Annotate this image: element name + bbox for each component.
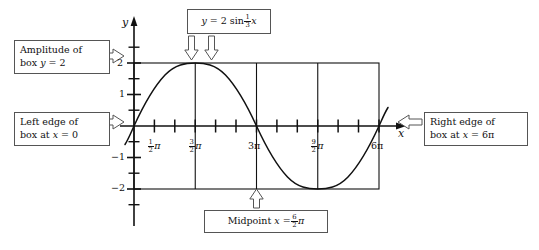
y-tick-label-2: 2 xyxy=(117,57,123,68)
midpoint-variable: x xyxy=(274,215,279,226)
x-axis xyxy=(120,120,406,133)
equation-equals: = xyxy=(210,15,218,26)
x-axis-label: x xyxy=(398,127,404,140)
callout-amplitude-line1: Amplitude of xyxy=(20,44,104,57)
equation-lhs: y xyxy=(201,15,206,26)
x-tick-label-three-half-pi: 3 2 π xyxy=(188,139,202,154)
equation-argument: x xyxy=(251,15,256,26)
y-axis-arrowhead xyxy=(131,16,138,26)
callout-left-edge: Left edge of box at x = 0 xyxy=(14,112,110,146)
y-tick-label-1: 1 xyxy=(119,88,125,99)
callout-left-edge-line2: box at x = 0 xyxy=(20,129,104,142)
midpoint-pi: π xyxy=(298,215,304,226)
y-tick-label-neg1: −1 xyxy=(111,151,125,162)
callout-amplitude-line2: box y = 2 xyxy=(20,57,104,70)
midpoint-fraction-six-halves: 6 2 xyxy=(291,214,297,229)
callout-right-edge-line1: Right edge of xyxy=(430,116,522,129)
callout-left-edge-line1: Left edge of xyxy=(20,116,104,129)
equation-coefficient: 2 xyxy=(221,15,227,26)
y-tick-label-neg2: −2 xyxy=(111,182,125,193)
figure-canvas: 2 1 −1 −2 y x 1 2 π 3 2 π 3π 9 2 π 6π Am… xyxy=(0,0,539,250)
midpoint-callout-arrow xyxy=(250,189,263,208)
callout-right-edge-line2: box at x = 6π xyxy=(430,129,522,142)
equation-function: sin xyxy=(230,15,244,26)
callout-equation: y = 2 sin 1 3 x xyxy=(187,9,271,34)
equation-callout-arrows xyxy=(185,36,218,60)
y-axis xyxy=(127,16,141,226)
fraction-nine-halves: 9 2 xyxy=(311,139,317,154)
midpoint-equals: = xyxy=(283,215,291,226)
fraction-one-half: 1 2 xyxy=(148,139,154,154)
callout-right-edge: Right edge of box at x = 6π xyxy=(424,112,528,146)
x-tick-label-half-pi: 1 2 π xyxy=(147,139,161,154)
x-tick-label-6pi: 6π xyxy=(371,140,383,151)
x-tick-label-nine-half-pi: 9 2 π xyxy=(310,139,324,154)
equation-fraction-one-third: 1 3 xyxy=(244,14,250,29)
y-axis-label: y xyxy=(122,16,128,29)
callout-midpoint: Midpoint x = 6 2 π xyxy=(204,210,328,233)
callout-amplitude: Amplitude of box y = 2 xyxy=(14,40,110,74)
x-tick-label-3pi: 3π xyxy=(248,140,260,151)
fraction-three-halves: 3 2 xyxy=(189,139,195,154)
midpoint-word: Midpoint xyxy=(228,215,272,226)
